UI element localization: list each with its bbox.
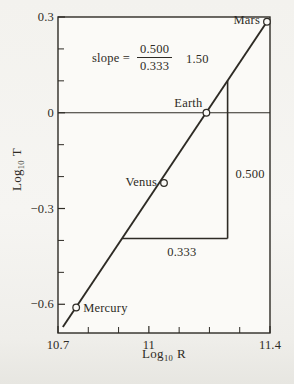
marker-earth: [203, 109, 210, 116]
x-axis-title: Log10R: [58, 346, 270, 363]
y-axis-title-suffix: T: [9, 148, 24, 156]
y-tick-label: −0.6: [10, 296, 54, 312]
x-axis-title-prefix: Log: [142, 346, 164, 361]
marker-venus: [161, 180, 168, 187]
y-tick-label: 0.3: [10, 9, 54, 25]
slope-prefix-label: slope =: [92, 51, 130, 66]
x-axis-title-suffix: R: [177, 346, 186, 361]
y-tick-label: 0: [10, 105, 54, 121]
slope-denominator: 0.333: [140, 58, 169, 73]
run-label: 0.333: [156, 244, 208, 260]
y-axis-title-prefix: Log: [9, 169, 24, 191]
point-label-mars: Mars: [233, 12, 260, 28]
slope-fraction: 0.500 0.333: [137, 42, 172, 73]
x-axis-title-subscript: 10: [164, 353, 173, 363]
point-label-earth: Earth: [174, 95, 202, 111]
y-axis-title: Log10T: [9, 138, 26, 202]
slope-annotation: slope = 0.500 0.333 1.50: [92, 42, 209, 73]
y-tick-label: −0.3: [10, 201, 54, 217]
marker-mercury: [73, 304, 80, 311]
point-label-venus: Venus: [125, 174, 157, 190]
y-axis-title-subscript: 10: [16, 160, 26, 169]
rise-label: 0.500: [236, 166, 265, 182]
point-label-mercury: Mercury: [83, 300, 127, 316]
marker-mars: [264, 18, 271, 25]
slope-result: 1.50: [186, 52, 209, 67]
kepler-log-log-plot: 10.71111.40.30−0.3−0.6MercuryVenusEarthM…: [0, 0, 294, 384]
slope-numerator: 0.500: [137, 42, 172, 58]
